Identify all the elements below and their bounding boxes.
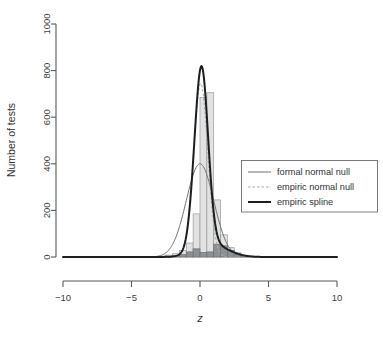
legend-label: empiric normal null bbox=[277, 182, 354, 192]
y-tick-label: 200 bbox=[41, 202, 52, 218]
x-axis-ticks: −10−50510 bbox=[55, 281, 342, 303]
x-axis: −10−50510 z bbox=[55, 281, 342, 324]
x-tick-label: 5 bbox=[266, 292, 271, 303]
histogram-bar-nonnull bbox=[207, 252, 214, 257]
histogram-bar-nonnull bbox=[193, 249, 200, 257]
x-tick-label: 10 bbox=[332, 292, 343, 303]
x-tick-label: 0 bbox=[197, 292, 202, 303]
y-axis-ticks: 02004006008001000 bbox=[41, 13, 56, 259]
y-tick-label: 0 bbox=[41, 254, 52, 259]
histogram-bar-nonnull bbox=[186, 252, 193, 257]
y-tick-label: 1000 bbox=[41, 13, 52, 34]
histogram-bar-nonnull bbox=[179, 255, 186, 257]
legend-label: empiric spline bbox=[277, 197, 333, 207]
y-axis-title: Number of tests bbox=[5, 103, 17, 177]
y-tick-label: 600 bbox=[41, 109, 52, 125]
y-axis: 02004006008001000 Number of tests bbox=[5, 13, 56, 259]
chart-figure: 02004006008001000 Number of tests −10−50… bbox=[0, 0, 383, 337]
y-tick-label: 800 bbox=[41, 63, 52, 79]
x-tick-label: −10 bbox=[55, 292, 71, 303]
histogram-bar-nonnull bbox=[200, 252, 207, 257]
x-tick-label: −5 bbox=[126, 292, 137, 303]
y-tick-label: 400 bbox=[41, 156, 52, 172]
histogram-bars-total bbox=[152, 93, 248, 257]
chart-canvas: 02004006008001000 Number of tests −10−50… bbox=[0, 0, 383, 337]
x-axis-title: z bbox=[196, 312, 203, 324]
legend-label: formal normal null bbox=[277, 167, 350, 177]
legend: formal normal nullempiric normal nullemp… bbox=[242, 161, 378, 213]
